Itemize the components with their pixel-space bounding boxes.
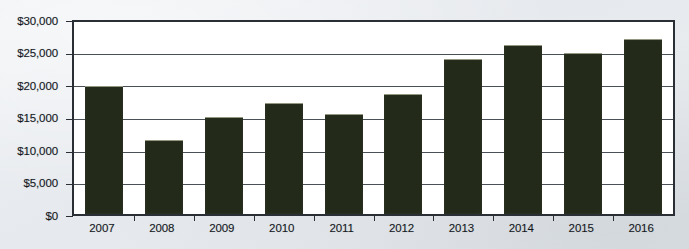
x-axis-tick — [493, 215, 494, 221]
x-axis-tick-label: 2007 — [89, 222, 114, 234]
x-axis-tick — [134, 215, 135, 221]
y-axis-tick-label: $30,000 — [17, 15, 58, 27]
bar-2011 — [325, 114, 363, 214]
y-axis-tick-label: $10,000 — [17, 145, 58, 157]
x-axis-tick-label: 2015 — [569, 222, 594, 234]
x-axis-tick — [314, 215, 315, 221]
bar-2013 — [444, 59, 482, 214]
x-axis-tick-label: 2012 — [389, 222, 414, 234]
y-axis-labels: $30,000 $25,000 $20,000 $15,000 $10,000 … — [0, 0, 66, 249]
bar-2016 — [624, 39, 662, 214]
x-axis-tick-label: 2013 — [449, 222, 474, 234]
x-axis-tick-label: 2016 — [629, 222, 654, 234]
x-axis-tick — [254, 215, 255, 221]
bar-2008 — [145, 140, 183, 214]
bar-2007 — [85, 86, 123, 214]
plot-area — [72, 20, 675, 216]
y-axis-tick-label: $0 — [45, 210, 58, 222]
y-axis-tick-label: $5,000 — [23, 177, 58, 189]
y-axis-tick-15000 — [66, 119, 73, 120]
x-axis-tick-label: 2014 — [509, 222, 534, 234]
x-axis-tick — [374, 215, 375, 221]
bar-series — [74, 22, 673, 214]
x-axis-tick-label: 2008 — [149, 222, 174, 234]
x-axis-tick — [613, 215, 614, 221]
x-axis-tick-label: 2010 — [269, 222, 294, 234]
bar-2014 — [504, 45, 542, 214]
x-axis-labels: 2007 2008 2009 2010 2011 2012 2013 2014 … — [72, 222, 675, 242]
bar-chart: $30,000 $25,000 $20,000 $15,000 $10,000 … — [0, 0, 689, 249]
x-axis-tick-label: 2009 — [209, 222, 234, 234]
y-axis-tick-5000 — [66, 184, 73, 185]
y-axis-tick-30000 — [66, 21, 73, 22]
x-axis-tick — [553, 215, 554, 221]
y-axis-tick-label: $20,000 — [17, 80, 58, 92]
x-axis-tick — [433, 215, 434, 221]
x-axis-tick — [194, 215, 195, 221]
y-axis-tick-label: $15,000 — [17, 112, 58, 124]
bar-2010 — [265, 103, 303, 214]
bar-2012 — [384, 94, 422, 214]
y-axis-tick-0 — [66, 216, 73, 217]
bar-2015 — [564, 53, 602, 214]
y-axis-tick-label: $25,000 — [17, 47, 58, 59]
y-axis-tick-10000 — [66, 152, 73, 153]
x-axis-tick-label: 2011 — [329, 222, 353, 234]
y-axis-tick-25000 — [66, 54, 73, 55]
y-axis-tick-20000 — [66, 86, 73, 87]
bar-2009 — [205, 117, 243, 214]
